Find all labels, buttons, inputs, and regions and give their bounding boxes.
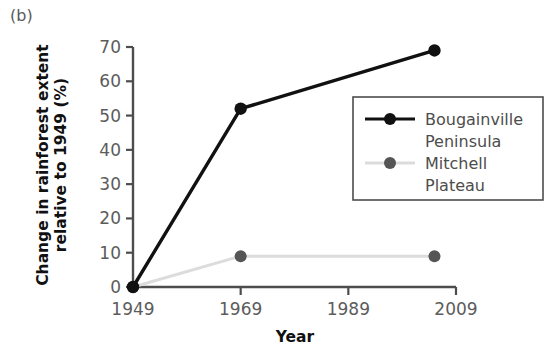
series-data-point [234, 103, 246, 115]
series-data-point [235, 250, 247, 262]
chart-legend: BougainvillePeninsulaMitchellPlateau [353, 97, 543, 200]
series-line [133, 256, 434, 287]
y-axis-tick-label: 0 [110, 277, 121, 297]
series-data-point [428, 250, 440, 262]
y-axis-tick-label: 40 [99, 140, 121, 160]
y-axis-tick-label: 10 [99, 243, 121, 263]
legend-label-line1: Mitchell [425, 154, 487, 173]
legend-label-line2: Peninsula [425, 132, 501, 151]
legend-label-line2: Plateau [425, 176, 485, 195]
series-data-point [127, 281, 139, 293]
legend-marker [384, 157, 396, 169]
x-axis-tick-label: 1989 [327, 299, 370, 319]
series-data-point [428, 44, 440, 56]
y-axis-tick-label: 30 [99, 174, 121, 194]
legend-label-line1: Bougainville [425, 110, 523, 129]
x-axis-tick-label: 1949 [111, 299, 154, 319]
chart-figure: (b) Change in rainforest extent relative… [0, 0, 548, 356]
y-axis-tick-label: 50 [99, 106, 121, 126]
x-axis: 1949196919892009 [111, 287, 477, 319]
y-axis: 010203040506070 [99, 37, 133, 297]
x-axis-tick-label: 1969 [219, 299, 262, 319]
y-axis-tick-label: 70 [99, 37, 121, 57]
line-chart-plot: 010203040506070 1949196919892009 Bougain… [0, 0, 548, 356]
x-axis-tick-label: 2009 [434, 299, 477, 319]
legend-marker [384, 113, 396, 125]
y-axis-tick-label: 20 [99, 208, 121, 228]
y-axis-tick-label: 60 [99, 71, 121, 91]
